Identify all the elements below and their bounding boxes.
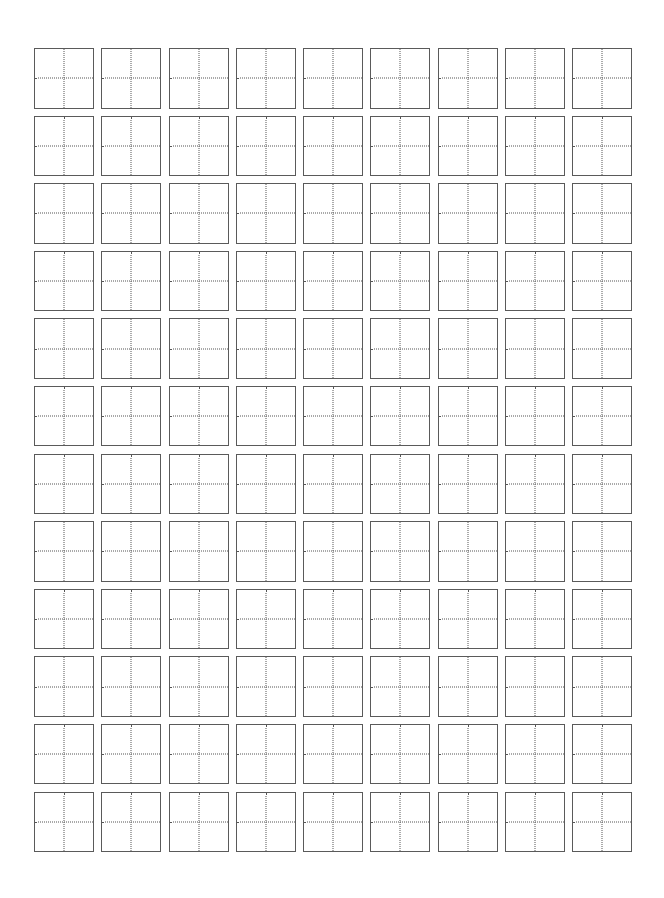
horizontal-guide-line xyxy=(506,281,564,282)
horizontal-guide-line xyxy=(102,348,160,349)
horizontal-guide-line xyxy=(439,281,497,282)
horizontal-guide-line xyxy=(439,78,497,79)
grid-cell xyxy=(505,386,565,447)
grid-cell xyxy=(303,724,363,785)
grid-cell xyxy=(236,251,296,312)
grid-cell xyxy=(101,521,161,582)
grid-cell xyxy=(236,656,296,717)
grid-cell xyxy=(438,724,498,785)
horizontal-guide-line xyxy=(439,348,497,349)
horizontal-guide-line xyxy=(170,213,228,214)
grid-cell xyxy=(370,116,430,177)
horizontal-guide-line xyxy=(573,686,631,687)
horizontal-guide-line xyxy=(35,145,93,146)
horizontal-guide-line xyxy=(439,821,497,822)
horizontal-guide-line xyxy=(170,281,228,282)
horizontal-guide-line xyxy=(573,213,631,214)
horizontal-guide-line xyxy=(102,821,160,822)
horizontal-guide-line xyxy=(439,686,497,687)
grid-cell xyxy=(169,724,229,785)
grid-cell xyxy=(505,656,565,717)
horizontal-guide-line xyxy=(35,821,93,822)
horizontal-guide-line xyxy=(170,78,228,79)
grid-cell xyxy=(101,386,161,447)
grid-cell xyxy=(236,792,296,853)
horizontal-guide-line xyxy=(506,619,564,620)
horizontal-guide-line xyxy=(35,754,93,755)
grid-cell xyxy=(572,792,632,853)
horizontal-guide-line xyxy=(439,213,497,214)
grid-cell xyxy=(169,116,229,177)
horizontal-guide-line xyxy=(439,551,497,552)
grid-cell xyxy=(34,792,94,853)
horizontal-guide-line xyxy=(170,686,228,687)
horizontal-guide-line xyxy=(506,78,564,79)
horizontal-guide-line xyxy=(371,821,429,822)
horizontal-guide-line xyxy=(506,348,564,349)
grid-cell xyxy=(34,183,94,244)
horizontal-guide-line xyxy=(237,78,295,79)
horizontal-guide-line xyxy=(573,145,631,146)
grid-cell xyxy=(505,454,565,515)
horizontal-guide-line xyxy=(170,619,228,620)
grid-cell xyxy=(169,386,229,447)
character-grid xyxy=(34,48,632,852)
horizontal-guide-line xyxy=(439,619,497,620)
horizontal-guide-line xyxy=(35,416,93,417)
horizontal-guide-line xyxy=(439,416,497,417)
grid-cell xyxy=(34,454,94,515)
grid-cell xyxy=(572,724,632,785)
grid-cell xyxy=(34,656,94,717)
grid-cell xyxy=(438,656,498,717)
grid-cell xyxy=(505,589,565,650)
grid-cell xyxy=(101,318,161,379)
grid-cell xyxy=(236,386,296,447)
horizontal-guide-line xyxy=(371,483,429,484)
horizontal-guide-line xyxy=(573,821,631,822)
grid-cell xyxy=(572,116,632,177)
grid-cell xyxy=(236,521,296,582)
horizontal-guide-line xyxy=(371,754,429,755)
grid-cell xyxy=(169,521,229,582)
grid-cell xyxy=(303,589,363,650)
grid-cell xyxy=(303,251,363,312)
horizontal-guide-line xyxy=(237,754,295,755)
horizontal-guide-line xyxy=(304,145,362,146)
grid-cell xyxy=(370,48,430,109)
horizontal-guide-line xyxy=(371,281,429,282)
horizontal-guide-line xyxy=(573,281,631,282)
horizontal-guide-line xyxy=(371,686,429,687)
horizontal-guide-line xyxy=(170,416,228,417)
grid-cell xyxy=(572,589,632,650)
grid-cell xyxy=(370,521,430,582)
grid-cell xyxy=(169,589,229,650)
horizontal-guide-line xyxy=(102,754,160,755)
horizontal-guide-line xyxy=(102,483,160,484)
grid-cell xyxy=(34,48,94,109)
horizontal-guide-line xyxy=(237,821,295,822)
horizontal-guide-line xyxy=(304,754,362,755)
horizontal-guide-line xyxy=(170,821,228,822)
grid-cell xyxy=(370,386,430,447)
grid-cell xyxy=(169,454,229,515)
horizontal-guide-line xyxy=(506,551,564,552)
grid-cell xyxy=(370,792,430,853)
horizontal-guide-line xyxy=(506,821,564,822)
grid-cell xyxy=(370,724,430,785)
grid-cell xyxy=(505,318,565,379)
grid-cell xyxy=(101,48,161,109)
grid-cell xyxy=(169,183,229,244)
horizontal-guide-line xyxy=(170,483,228,484)
horizontal-guide-line xyxy=(439,145,497,146)
horizontal-guide-line xyxy=(304,551,362,552)
horizontal-guide-line xyxy=(170,145,228,146)
horizontal-guide-line xyxy=(102,416,160,417)
grid-cell xyxy=(438,116,498,177)
horizontal-guide-line xyxy=(506,754,564,755)
horizontal-guide-line xyxy=(506,145,564,146)
horizontal-guide-line xyxy=(304,686,362,687)
horizontal-guide-line xyxy=(304,78,362,79)
grid-cell xyxy=(101,251,161,312)
horizontal-guide-line xyxy=(304,416,362,417)
grid-cell xyxy=(505,183,565,244)
